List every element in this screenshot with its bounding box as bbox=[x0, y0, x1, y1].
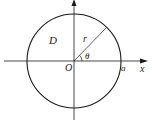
radius-label: r bbox=[83, 33, 87, 44]
x-axis-label: x bbox=[139, 63, 145, 74]
angle-arc bbox=[80, 55, 82, 61]
angle-label: θ bbox=[85, 51, 90, 61]
origin-label: O bbox=[65, 62, 72, 73]
polar-circle-diagram: D r θ O a x bbox=[0, 0, 152, 127]
region-label: D bbox=[48, 34, 57, 46]
intercept-label: a bbox=[121, 63, 126, 73]
y-axis-arrow-icon bbox=[72, 0, 77, 6]
radius-line bbox=[74, 27, 107, 61]
